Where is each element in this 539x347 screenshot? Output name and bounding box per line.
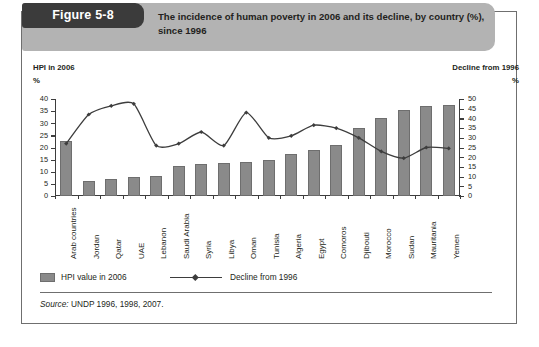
x-tick	[460, 195, 461, 199]
category-label: Saudi Arabia	[182, 214, 191, 259]
right-tick-label: 40	[468, 115, 490, 122]
category-label: Comoros	[339, 227, 348, 259]
line-marker	[402, 156, 406, 160]
left-tick-label: 40	[26, 95, 48, 102]
category-label: Mauritania	[429, 222, 438, 259]
left-tick-label: 20	[26, 144, 48, 151]
legend-bar-swatch	[40, 273, 55, 282]
right-axis-unit: %	[512, 76, 519, 85]
category-label: Lebanon	[159, 228, 168, 259]
left-axis-unit: %	[33, 76, 40, 85]
line-marker	[334, 126, 338, 130]
line-marker	[177, 142, 181, 146]
right-tick-label: 10	[468, 173, 490, 180]
category-label: Qatar	[114, 239, 123, 259]
line-marker	[289, 134, 293, 138]
left-tick-label: 15	[26, 156, 48, 163]
chart-plot-area: 0510152025303540 05101520253035404550	[55, 99, 460, 196]
left-tick-label: 30	[26, 120, 48, 127]
legend-line-marker	[192, 274, 198, 280]
right-tick-label: 20	[468, 154, 490, 161]
source-value: UNDP 1996, 1998, 2007.	[71, 299, 164, 309]
category-label: Egypt	[317, 239, 326, 259]
line-marker	[199, 130, 203, 134]
line-series	[55, 99, 460, 196]
right-tick-label: 45	[468, 105, 490, 112]
left-tick-label: 5	[26, 180, 48, 187]
left-axis-caption: HPI in 2006	[33, 63, 75, 72]
line-marker	[312, 123, 316, 127]
category-label: Jordan	[92, 235, 101, 259]
category-label: Tunisia	[272, 234, 281, 260]
category-label: Libya	[227, 240, 236, 259]
right-axis-caption: Decline from 1996	[452, 63, 519, 72]
line-marker	[424, 145, 428, 149]
category-labels: Arab countriesJordanQatarUAELebanonSaudi…	[55, 199, 460, 261]
right-tick-label: 0	[468, 192, 490, 199]
source-prefix: Source:	[40, 299, 69, 309]
category-label: Oman	[249, 237, 258, 259]
category-label: Syria	[204, 241, 213, 259]
source-divider	[40, 292, 492, 293]
category-label: Arab countries	[69, 207, 78, 259]
left-tick-label: 10	[26, 168, 48, 175]
category-label: Yemen	[452, 234, 461, 259]
category-label: Sudan	[407, 236, 416, 259]
figure-number-label: Figure 5-8	[22, 3, 144, 28]
right-tick-label: 50	[468, 95, 490, 102]
category-label: Morocco	[384, 228, 393, 259]
figure-title: The incidence of human poverty in 2006 a…	[158, 10, 488, 37]
right-tick-label: 5	[468, 183, 490, 190]
left-tick-label: 25	[26, 132, 48, 139]
source-note: Source: UNDP 1996, 1998, 2007.	[40, 299, 163, 309]
right-tick-label: 15	[468, 163, 490, 170]
line-marker	[109, 104, 113, 108]
decline-line	[66, 102, 449, 158]
chart-legend: HPI value in 2006 Decline from 1996	[40, 272, 340, 284]
left-tick-label: 0	[26, 192, 48, 199]
legend-bar-label: HPI value in 2006	[61, 272, 127, 282]
category-label: UAE	[137, 243, 146, 259]
line-marker	[447, 146, 451, 150]
right-tick-label: 30	[468, 134, 490, 141]
category-label: Algeria	[294, 234, 303, 259]
right-tick-label: 25	[468, 144, 490, 151]
category-label: Djibouti	[362, 232, 371, 259]
figure-number-badge: Figure 5-8	[22, 3, 144, 28]
right-tick-label: 35	[468, 124, 490, 131]
left-tick-label: 35	[26, 107, 48, 114]
legend-line-label: Decline from 1996	[230, 272, 297, 282]
